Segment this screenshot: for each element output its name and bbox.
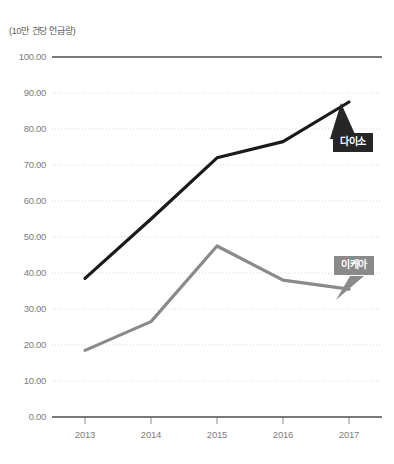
y-tick-label: 10.00 (2, 375, 46, 386)
y-tick-label: 80.00 (2, 123, 46, 134)
y-tick-label: 70.00 (2, 159, 46, 170)
series-line-ikea (85, 246, 349, 350)
line-chart-plot (0, 0, 394, 464)
y-tick-label: 50.00 (2, 231, 46, 242)
x-tick-marks-group (85, 417, 349, 424)
x-tick-label: 2014 (126, 429, 176, 440)
y-tick-label: 30.00 (2, 303, 46, 314)
y-tick-label: 20.00 (2, 339, 46, 350)
y-tick-label: 40.00 (2, 267, 46, 278)
y-tick-label: 60.00 (2, 195, 46, 206)
series-label-ikea: 이케아 (334, 256, 374, 275)
y-tick-label: 100.00 (2, 51, 46, 62)
x-tick-label: 2017 (324, 429, 374, 440)
x-tick-label: 2016 (258, 429, 308, 440)
series-label-daiso: 다이소 (333, 133, 373, 152)
y-tick-label: 0.00 (2, 411, 46, 422)
y-tick-label: 90.00 (2, 87, 46, 98)
x-tick-label: 2015 (192, 429, 242, 440)
series-line-daiso (85, 102, 349, 278)
x-tick-label: 2013 (60, 429, 110, 440)
chart-container: (10만 건당 언급량) 0.0010.0020.0030.0040.0050.… (0, 0, 394, 464)
